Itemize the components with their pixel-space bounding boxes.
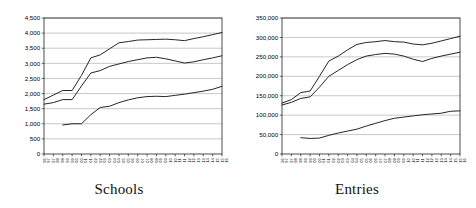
chart-panel-entries: 050,000100,000150,000200,000250,000300,0… xyxy=(238,0,476,208)
svg-text:350,000: 350,000 xyxy=(256,14,279,21)
line-chart-schools: 05001,0001,5002,0002,5003,0003,5004,0004… xyxy=(0,0,238,180)
chart-caption-schools: Schools xyxy=(0,181,238,198)
plot-area-entries: 050,000100,000150,000200,000250,000300,0… xyxy=(238,0,476,180)
svg-text:300,000: 300,000 xyxy=(256,34,279,41)
svg-text:1,000: 1,000 xyxy=(25,120,41,127)
plot-area-schools: 05001,0001,5002,0002,5003,0003,5004,0004… xyxy=(0,0,238,180)
chart-panel-schools: 05001,0001,5002,0002,5003,0003,5004,0004… xyxy=(0,0,238,208)
figure-container: 05001,0001,5002,0002,5003,0003,5004,0004… xyxy=(0,0,476,208)
svg-text:16: 16 xyxy=(462,157,467,162)
svg-text:2,000: 2,000 xyxy=(25,90,41,97)
line-chart-entries: 050,000100,000150,000200,000250,000300,0… xyxy=(238,0,476,180)
svg-text:250,000: 250,000 xyxy=(256,53,279,60)
svg-text:3,500: 3,500 xyxy=(25,44,41,51)
svg-text:100,000: 100,000 xyxy=(256,111,279,118)
svg-text:500: 500 xyxy=(30,135,41,142)
svg-text:4,000: 4,000 xyxy=(25,29,41,36)
svg-text:0: 0 xyxy=(275,150,279,157)
chart-caption-entries: Entries xyxy=(238,181,476,198)
svg-text:2,500: 2,500 xyxy=(25,75,41,82)
svg-text:200,000: 200,000 xyxy=(256,72,279,79)
svg-text:150,000: 150,000 xyxy=(256,92,279,99)
svg-text:16: 16 xyxy=(224,157,229,162)
svg-text:50,000: 50,000 xyxy=(259,131,278,138)
svg-text:1,500: 1,500 xyxy=(25,105,41,112)
svg-text:4,500: 4,500 xyxy=(25,14,41,21)
svg-text:3,000: 3,000 xyxy=(25,60,41,67)
svg-text:0: 0 xyxy=(37,150,41,157)
